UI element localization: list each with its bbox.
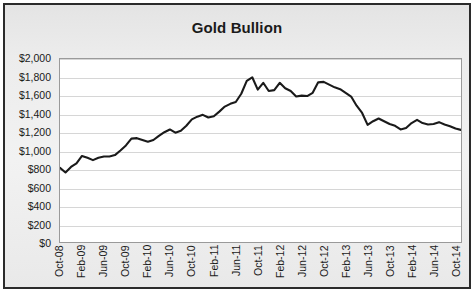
- x-axis-tick-label: Feb-12: [274, 245, 286, 291]
- x-axis-tick-label: Jun-09: [97, 245, 109, 291]
- x-axis-tick-label: Jun-12: [296, 245, 308, 291]
- x-axis-tick-label: Feb-09: [75, 245, 87, 291]
- y-axis-tick-label: $600: [28, 183, 51, 193]
- x-axis-tick-label: Oct-13: [384, 245, 396, 291]
- x-axis-tick-label: Jun-11: [230, 245, 242, 291]
- x-axis-tick-label: Feb-11: [208, 245, 220, 291]
- x-axis-tick-label: Feb-10: [141, 245, 153, 291]
- x-axis-tick-label: Jun-14: [428, 245, 440, 291]
- x-axis-tick-label: Jun-10: [163, 245, 175, 291]
- y-axis-tick-label: $1,400: [19, 109, 51, 119]
- x-axis-tick-label: Oct-12: [318, 245, 330, 291]
- x-axis-tick-label: Feb-13: [340, 245, 352, 291]
- x-axis-tick-label: Jun-13: [362, 245, 374, 291]
- plot-area: [59, 58, 462, 243]
- series-line-chart: [60, 59, 461, 242]
- y-axis-tick-label: $400: [28, 201, 51, 211]
- x-axis-tick-label: Oct-10: [185, 245, 197, 291]
- y-axis-tick-label: $0: [39, 238, 51, 248]
- gold-price-line: [60, 77, 461, 172]
- y-axis-tick-label: $1,000: [19, 146, 51, 156]
- x-axis-tick-label: Oct-09: [119, 245, 131, 291]
- y-axis-tick-label: $1,800: [19, 72, 51, 82]
- y-axis-tick-label: $200: [28, 220, 51, 230]
- y-axis-tick-label: $1,600: [19, 90, 51, 100]
- x-axis-tick-label: Oct-08: [53, 245, 65, 291]
- y-axis-tick-label: $2,000: [19, 53, 51, 63]
- chart-title: Gold Bullion: [5, 19, 469, 37]
- y-axis-tick-label: $1,200: [19, 127, 51, 137]
- y-axis-tick-label: $800: [28, 164, 51, 174]
- chart-frame: Gold Bullion $2,000$1,800$1,600$1,400$1,…: [3, 3, 471, 289]
- x-axis-tick-label: Oct-11: [252, 245, 264, 291]
- x-axis-tick-label: Feb-14: [406, 245, 418, 291]
- x-axis: Oct-08Feb-09Jun-09Oct-09Feb-10Jun-10Oct-…: [59, 245, 462, 293]
- y-axis: $2,000$1,800$1,600$1,400$1,200$1,000$800…: [5, 58, 55, 243]
- x-axis-tick-label: Oct-14: [450, 245, 462, 291]
